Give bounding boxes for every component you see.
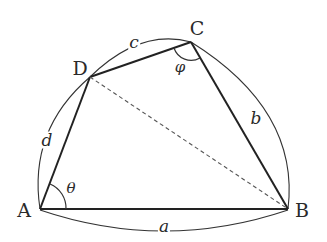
angle-arc-theta xyxy=(50,184,66,209)
quadrilateral-diagram xyxy=(0,0,327,242)
angle-label-theta: θ xyxy=(66,181,75,196)
angle-label-phi: φ xyxy=(175,60,186,75)
side-label-c: c xyxy=(128,34,140,51)
side-label-b: b xyxy=(250,110,263,127)
vertex-label-c: C xyxy=(190,19,205,38)
vertex-label-d: D xyxy=(72,59,87,78)
vertex-label-b: B xyxy=(295,201,309,220)
side-label-d: d xyxy=(41,132,54,149)
vertex-label-a: A xyxy=(17,201,31,220)
diagonal-db xyxy=(90,77,288,209)
side-label-a: a xyxy=(158,218,170,235)
